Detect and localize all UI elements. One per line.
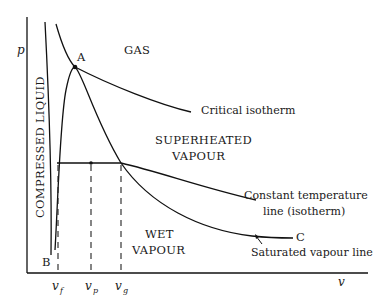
pv-diagram: p v A B C GAS SUPERHEATED VAPOUR WET VAP… bbox=[0, 0, 389, 300]
svg-text:f: f bbox=[59, 286, 65, 295]
svg-text:g: g bbox=[123, 286, 128, 295]
annotation-constant-temp-2: line (isotherm) bbox=[263, 205, 345, 218]
critical-point-a bbox=[73, 65, 78, 70]
annotation-critical-isotherm: Critical isotherm bbox=[201, 104, 296, 117]
label-a: A bbox=[76, 50, 86, 64]
label-b: B bbox=[42, 255, 50, 269]
tick-vg: v g bbox=[115, 279, 128, 295]
tick-vf: v f bbox=[52, 279, 65, 295]
y-axis-label: p bbox=[17, 43, 25, 57]
region-gas: GAS bbox=[124, 43, 150, 57]
annotation-constant-temp-1: Constant temperature bbox=[244, 189, 368, 202]
region-compressed-liquid: COMPRESSED LIQUID bbox=[33, 76, 47, 218]
annotation-saturated-vapour: Saturated vapour line bbox=[251, 246, 373, 259]
region-wet-1: WET bbox=[145, 227, 174, 241]
svg-text:p: p bbox=[93, 286, 98, 295]
label-c: C bbox=[296, 230, 305, 244]
region-wet-2: VAPOUR bbox=[131, 243, 185, 257]
tick-vp: v p bbox=[85, 279, 98, 295]
x-axis-label: v bbox=[338, 275, 345, 289]
point-p bbox=[89, 161, 93, 165]
svg-text:v: v bbox=[85, 279, 92, 293]
constant-temperature-line bbox=[57, 163, 256, 200]
region-superheated-1: SUPERHEATED bbox=[155, 133, 252, 147]
svg-text:v: v bbox=[115, 279, 122, 293]
region-superheated-2: VAPOUR bbox=[171, 149, 225, 163]
svg-text:v: v bbox=[52, 279, 59, 293]
